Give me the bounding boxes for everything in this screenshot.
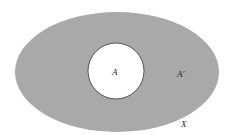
universe-label: X	[180, 119, 187, 129]
venn-diagram: A A′ X	[0, 0, 230, 135]
set-a-label: A	[111, 67, 118, 77]
venn-svg: A A′ X	[0, 0, 230, 135]
complement-label: A′	[176, 69, 185, 79]
